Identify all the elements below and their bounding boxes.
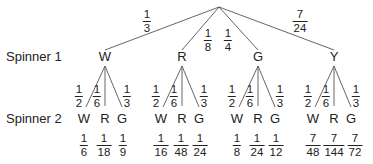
node-g-g: G <box>270 112 280 125</box>
branch-prob-g: 14 <box>224 28 232 53</box>
product-g-w: 18 <box>233 133 241 158</box>
node-y-g: G <box>346 112 356 125</box>
spinner1-label: Spinner 1 <box>6 50 62 63</box>
node-spinner1-w: W <box>99 50 111 63</box>
sub-prob-w-g: 13 <box>123 84 131 109</box>
sub-prob-r-g: 13 <box>200 84 208 109</box>
node-g-r: R <box>253 112 262 125</box>
branch-prob-r: 18 <box>204 28 212 53</box>
node-y-w: W <box>307 112 319 125</box>
product-r-r: 148 <box>174 133 189 158</box>
sub-prob-w-w: 12 <box>75 84 83 109</box>
sub-prob-g-g: 13 <box>276 84 284 109</box>
node-w-r: R <box>100 112 109 125</box>
product-g-g: 112 <box>269 133 284 158</box>
sub-prob-r-w: 12 <box>152 84 160 109</box>
node-spinner1-g: G <box>253 50 263 63</box>
product-r-g: 124 <box>193 133 208 158</box>
sub-prob-g-w: 12 <box>228 84 236 109</box>
product-w-w: 16 <box>80 133 88 158</box>
product-y-w: 748 <box>306 133 321 158</box>
node-g-w: W <box>231 112 243 125</box>
product-w-r: 118 <box>97 133 112 158</box>
branch-prob-y: 724 <box>293 9 308 34</box>
spinner2-label: Spinner 2 <box>6 112 62 125</box>
sub-prob-w-r: 16 <box>93 84 101 109</box>
sub-prob-r-r: 16 <box>170 84 178 109</box>
node-w-g: G <box>117 112 127 125</box>
sub-prob-y-g: 13 <box>352 84 360 109</box>
node-r-w: W <box>155 112 167 125</box>
node-spinner1-r: R <box>177 50 186 63</box>
product-w-g: 19 <box>119 133 127 158</box>
sub-prob-g-r: 16 <box>246 84 254 109</box>
branch-prob-w: 13 <box>143 9 151 34</box>
sub-prob-y-r: 16 <box>322 84 330 109</box>
node-y-r: R <box>329 112 338 125</box>
product-g-r: 124 <box>250 133 265 158</box>
product-r-w: 116 <box>154 133 169 158</box>
node-r-r: R <box>177 112 186 125</box>
node-r-g: G <box>194 112 204 125</box>
product-y-g: 772 <box>348 133 363 158</box>
node-w-w: W <box>78 112 90 125</box>
sub-prob-y-w: 12 <box>304 84 312 109</box>
product-y-r: 7144 <box>323 133 344 158</box>
node-spinner1-y: Y <box>330 50 339 63</box>
